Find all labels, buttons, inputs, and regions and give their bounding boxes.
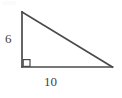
right-angle-square-icon [23, 60, 30, 67]
triangle-drawing [0, 0, 122, 98]
triangle-hypotenuse [22, 12, 113, 67]
label-vertical-leg: 6 [5, 32, 12, 45]
label-horizontal-leg: 10 [44, 75, 57, 88]
geometry-figure: 6 10 [0, 0, 122, 98]
